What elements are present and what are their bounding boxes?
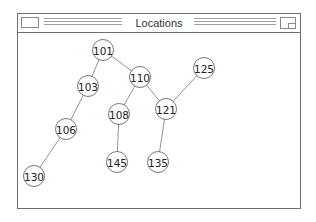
node-label: 108	[109, 109, 129, 121]
node-label: 125	[194, 63, 214, 75]
node-label: 110	[130, 72, 150, 84]
node-110[interactable]: 110	[130, 67, 151, 88]
node-label: 145	[107, 157, 127, 169]
locations-tree-graph: 101103110125106108121130145135	[0, 0, 316, 222]
node-label: 121	[156, 104, 176, 116]
node-121[interactable]: 121	[156, 99, 177, 120]
node-label: 130	[24, 171, 44, 183]
node-label: 106	[56, 124, 76, 136]
node-label: 103	[78, 81, 98, 93]
node-101[interactable]: 101	[93, 40, 114, 61]
node-130[interactable]: 130	[24, 166, 45, 187]
node-108[interactable]: 108	[109, 104, 130, 125]
node-106[interactable]: 106	[56, 119, 77, 140]
node-103[interactable]: 103	[78, 76, 99, 97]
node-135[interactable]: 135	[148, 152, 169, 173]
node-label: 135	[148, 157, 168, 169]
node-145[interactable]: 145	[107, 152, 128, 173]
node-label: 101	[93, 45, 113, 57]
node-125[interactable]: 125	[194, 58, 215, 79]
